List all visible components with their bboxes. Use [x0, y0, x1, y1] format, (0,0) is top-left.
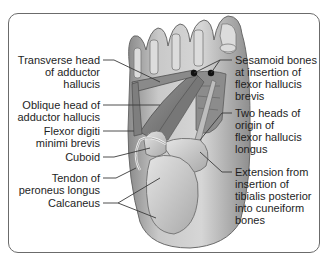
- label-two-heads-flexor-hallucis-longus: Two heads of origin of flexor hallucis l…: [235, 107, 321, 155]
- label-extension-tibialis-posterior: Extension from insertion of tibialis pos…: [235, 166, 321, 226]
- label-calcaneus: Calcaneus: [14, 197, 100, 209]
- calcaneus-bone: [146, 155, 198, 234]
- label-flexor-digiti-minimi-brevis: Flexor digiti minimi brevis: [14, 125, 100, 149]
- label-cuboid: Cuboid: [14, 151, 100, 163]
- label-tendon-peroneus-longus: Tendon of peroneus longus: [6, 172, 100, 196]
- label-sesamoid-bones: Sesamoid bones at insertion of flexor ha…: [235, 54, 321, 102]
- label-oblique-head-adductor-hallucis: Oblique head of adductor hallucis: [10, 99, 100, 123]
- label-transverse-head-adductor-hallucis: Transverse head of adductor hallucis: [14, 54, 100, 90]
